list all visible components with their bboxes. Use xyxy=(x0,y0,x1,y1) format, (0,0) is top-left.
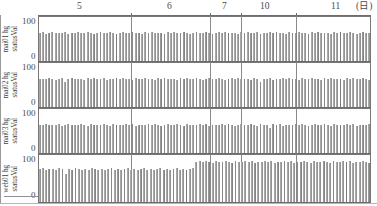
bar xyxy=(199,33,201,62)
bar xyxy=(260,82,262,108)
bar xyxy=(170,33,172,62)
bar xyxy=(148,124,150,154)
figure-bottom-rule xyxy=(0,203,377,204)
bar xyxy=(221,79,223,108)
bar xyxy=(74,125,76,154)
bar xyxy=(71,78,73,108)
bar xyxy=(285,125,287,154)
plot-area-mai01 xyxy=(38,16,371,62)
bar xyxy=(266,125,268,154)
panel-label-mai03: mai03 hg statusVal xyxy=(0,108,22,154)
bar xyxy=(205,161,207,203)
bar xyxy=(251,161,253,203)
bar xyxy=(319,162,321,203)
bar xyxy=(45,170,47,203)
bar xyxy=(272,124,274,154)
bar xyxy=(103,78,105,108)
x-tick-label: 11 xyxy=(331,0,340,13)
bar xyxy=(228,162,230,203)
bar xyxy=(196,78,198,108)
bar xyxy=(365,33,367,62)
bar xyxy=(320,33,322,62)
bar xyxy=(164,34,166,62)
bar xyxy=(287,162,289,203)
bar xyxy=(314,79,316,108)
bar xyxy=(314,124,316,154)
panel-mai03: mai03 hg statusVal 100 0 xyxy=(0,108,377,154)
bar xyxy=(67,34,69,62)
bar xyxy=(156,169,158,203)
bar xyxy=(180,78,182,108)
bar xyxy=(292,125,294,154)
bar xyxy=(96,79,98,108)
bar xyxy=(157,78,159,108)
bar xyxy=(336,125,338,154)
bar xyxy=(114,170,116,203)
panel-label-line2: statusVal xyxy=(11,72,20,97)
bar xyxy=(343,33,345,62)
bar xyxy=(352,163,354,203)
top-x-axis: 5 6 7 10 11 (日) xyxy=(0,0,377,16)
bar xyxy=(90,33,92,62)
x-tick-label: 10 xyxy=(260,0,270,13)
bar xyxy=(71,33,73,62)
bar xyxy=(285,34,287,62)
y-axis-max-label: 100 xyxy=(22,155,36,164)
bar xyxy=(346,78,348,108)
bar xyxy=(75,168,77,203)
bar xyxy=(215,125,217,154)
bar xyxy=(81,170,83,203)
bar xyxy=(138,125,140,154)
bar xyxy=(228,79,230,108)
bar xyxy=(151,125,153,154)
bar xyxy=(285,79,287,108)
bar xyxy=(356,126,358,154)
bar xyxy=(218,32,220,62)
bar xyxy=(48,125,50,154)
bar xyxy=(112,79,114,108)
bar xyxy=(154,124,156,154)
bar xyxy=(128,125,130,154)
bar xyxy=(160,79,162,108)
bar xyxy=(199,161,201,203)
bar xyxy=(224,125,226,154)
bar xyxy=(87,32,89,62)
bar xyxy=(80,124,82,154)
bar xyxy=(324,78,326,108)
bar xyxy=(58,79,60,108)
bar xyxy=(192,168,194,203)
bar xyxy=(231,125,233,154)
bar xyxy=(300,162,302,203)
bar xyxy=(186,33,188,62)
bar xyxy=(352,78,354,108)
bar xyxy=(256,32,258,62)
bar xyxy=(333,161,335,203)
bar xyxy=(167,79,169,108)
bar xyxy=(333,32,335,62)
bar xyxy=(189,125,191,154)
bar xyxy=(308,34,310,62)
bar xyxy=(365,162,367,203)
bar xyxy=(280,162,282,203)
bar xyxy=(146,170,148,203)
bar xyxy=(365,79,367,108)
panel-mai01: mai01 hg statusVal 100 0 xyxy=(0,16,377,62)
bar xyxy=(349,161,351,203)
bar xyxy=(362,125,364,154)
bar xyxy=(250,80,252,108)
bar xyxy=(144,32,146,62)
bar xyxy=(320,80,322,108)
bar xyxy=(130,170,132,203)
bar xyxy=(183,126,185,154)
bar xyxy=(150,169,152,203)
bar xyxy=(100,32,102,62)
bar xyxy=(205,32,207,62)
bar xyxy=(306,162,308,203)
bar xyxy=(339,162,341,203)
bar xyxy=(346,33,348,62)
bar xyxy=(132,124,134,154)
panel-label-line2: statusVal xyxy=(11,26,20,51)
bar xyxy=(267,162,269,203)
bar xyxy=(42,125,44,154)
bar xyxy=(330,34,332,62)
